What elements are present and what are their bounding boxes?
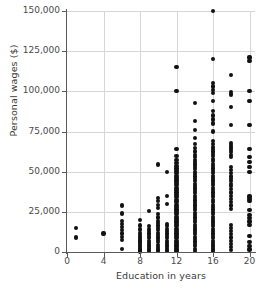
data-point	[193, 119, 197, 123]
x-tick-label: 12	[162, 256, 192, 266]
data-point	[174, 147, 178, 151]
y-tick-label: 50,000	[4, 166, 60, 176]
data-point	[229, 92, 233, 96]
x-tick-mark	[140, 253, 141, 257]
data-point	[247, 208, 251, 212]
gridline-horizontal	[67, 172, 255, 173]
data-point	[174, 89, 178, 93]
gridline-horizontal	[67, 212, 255, 213]
x-tick-mark	[250, 253, 251, 257]
data-point	[120, 247, 124, 251]
x-tick-label: 8	[125, 256, 155, 266]
x-tick-mark	[177, 253, 178, 257]
x-tick-mark	[213, 253, 214, 257]
data-point	[247, 170, 251, 174]
gridline-horizontal	[67, 91, 255, 92]
data-point	[247, 199, 251, 203]
data-point	[211, 9, 215, 13]
y-tick-label: 125,000	[4, 45, 60, 55]
y-tick-mark	[62, 91, 66, 92]
y-tick-label: 75,000	[4, 126, 60, 136]
data-point	[138, 218, 142, 222]
data-point	[247, 147, 251, 151]
data-point	[165, 194, 169, 198]
y-tick-mark	[62, 212, 66, 213]
y-tick-mark	[62, 51, 66, 52]
data-point	[229, 73, 233, 77]
data-point	[229, 105, 233, 109]
data-point	[247, 123, 251, 127]
data-point	[156, 162, 160, 166]
data-point	[211, 129, 215, 133]
y-tick-label: 25,000	[4, 206, 60, 216]
x-axis-label: Education in years	[67, 270, 255, 281]
data-point	[211, 99, 215, 103]
y-tick-mark	[62, 252, 66, 253]
data-point	[101, 231, 105, 235]
y-tick-mark	[62, 11, 66, 12]
data-point	[211, 91, 215, 95]
x-tick-mark	[67, 253, 68, 257]
y-axis-line	[66, 9, 67, 254]
y-tick-label: 0	[4, 246, 60, 256]
gridline-horizontal	[67, 11, 255, 12]
gridline-horizontal	[67, 51, 255, 52]
data-point	[193, 101, 197, 105]
data-point	[165, 202, 169, 206]
data-point	[156, 206, 160, 210]
data-point	[193, 128, 197, 132]
x-axis-line	[66, 252, 256, 253]
data-point	[247, 234, 251, 238]
data-point	[247, 223, 251, 227]
data-point	[211, 109, 215, 113]
x-tick-label: 20	[235, 256, 265, 266]
data-point	[193, 136, 197, 140]
data-point	[247, 155, 251, 159]
x-tick-label: 0	[52, 256, 82, 266]
data-point	[211, 121, 215, 125]
data-point	[74, 226, 78, 230]
data-point	[229, 155, 233, 159]
scatter-plot-figure: Personal wages ($) Education in years 02…	[0, 0, 267, 290]
y-tick-label: 150,000	[4, 5, 60, 15]
data-point	[120, 238, 124, 242]
x-tick-label: 4	[89, 256, 119, 266]
y-tick-mark	[62, 172, 66, 173]
data-point	[74, 235, 78, 239]
y-tick-label: 100,000	[4, 85, 60, 95]
data-point	[247, 89, 251, 93]
data-point	[247, 165, 251, 169]
data-point	[229, 207, 233, 211]
data-point	[247, 160, 251, 164]
y-tick-mark	[62, 132, 66, 133]
data-point	[120, 211, 124, 215]
x-tick-label: 16	[198, 256, 228, 266]
data-point	[174, 65, 178, 69]
data-point	[247, 59, 251, 63]
data-point	[165, 170, 169, 174]
x-tick-mark	[104, 253, 105, 257]
gridline-vertical	[104, 11, 105, 252]
data-point	[211, 57, 215, 61]
data-point	[229, 123, 233, 127]
gridline-horizontal	[67, 132, 255, 133]
data-point	[120, 203, 124, 207]
plot-area	[67, 11, 255, 252]
data-point	[247, 99, 251, 103]
gridline-vertical	[140, 11, 141, 252]
